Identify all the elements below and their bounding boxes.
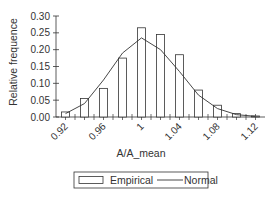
empirical-bars <box>62 28 260 117</box>
histogram-bar <box>62 112 70 117</box>
y-tick-label: 0.05 <box>31 95 51 106</box>
histogram-bar <box>138 28 146 117</box>
x-tick-label: 1 <box>134 120 146 132</box>
y-tick-label: 0.00 <box>31 112 51 123</box>
legend: Empirical Normal <box>74 172 218 188</box>
y-tick-label: 0.15 <box>31 61 51 72</box>
x-axis: 0.920.9611.041.081.12 <box>48 114 265 142</box>
y-tick-label: 0.10 <box>31 78 51 89</box>
y-axis-label: Relative frequence <box>7 18 19 106</box>
histogram-bar <box>195 90 203 117</box>
x-tick-label: 0.92 <box>48 120 70 142</box>
histogram-bar <box>119 58 127 117</box>
x-tick-label: 0.96 <box>86 120 108 142</box>
y-axis: 0.000.050.100.150.200.250.30 <box>31 11 59 123</box>
chart-container: 0.000.050.100.150.200.250.30 0.920.9611.… <box>0 0 277 205</box>
x-tick-label: 1.04 <box>162 120 184 142</box>
histogram-bar <box>176 55 184 117</box>
x-tick-label: 1.08 <box>200 120 222 142</box>
histogram-bar <box>81 98 89 117</box>
legend-normal-label: Normal <box>184 174 218 186</box>
y-tick-label: 0.20 <box>31 44 51 55</box>
x-tick-label: 1.12 <box>238 120 260 142</box>
histogram-bar <box>157 35 165 117</box>
histogram-chart: 0.000.050.100.150.200.250.30 0.920.9611.… <box>0 0 277 205</box>
legend-empirical-label: Empirical <box>110 174 153 186</box>
y-tick-label: 0.30 <box>31 11 51 22</box>
y-tick-label: 0.25 <box>31 27 51 38</box>
legend-empirical-swatch <box>79 177 103 184</box>
x-axis-label: A/A_mean <box>116 147 165 159</box>
histogram-bar <box>100 88 108 117</box>
